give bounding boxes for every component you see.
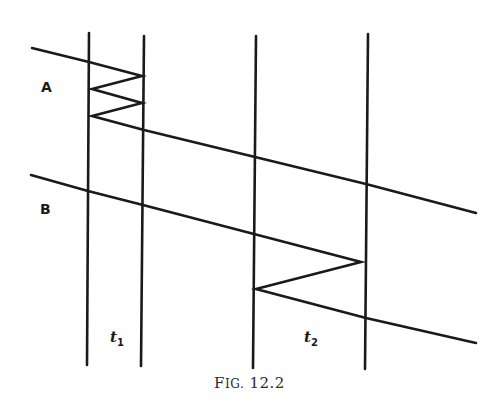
caption-number: 12.2 — [244, 374, 285, 392]
caption-smallcaps: IG. — [225, 377, 244, 391]
label-a: A — [41, 79, 52, 95]
label-b: B — [40, 201, 51, 217]
label-t2: t2 — [304, 328, 318, 348]
label-t2-sub: 2 — [311, 337, 318, 348]
label-t2-main: t — [304, 328, 311, 346]
label-t1-sub: 1 — [117, 337, 124, 348]
vertical-line-v2 — [141, 36, 144, 366]
figure-12-2: A B t1 t2 FIG. 12.2 — [0, 0, 499, 412]
vertical-line-v1 — [87, 33, 89, 365]
diagram-canvas — [0, 0, 499, 412]
vertical-line-v3 — [253, 36, 256, 368]
label-t1: t1 — [110, 328, 124, 348]
caption-prefix: F — [214, 374, 225, 392]
figure-caption: FIG. 12.2 — [0, 374, 499, 392]
label-t1-main: t — [110, 328, 117, 346]
